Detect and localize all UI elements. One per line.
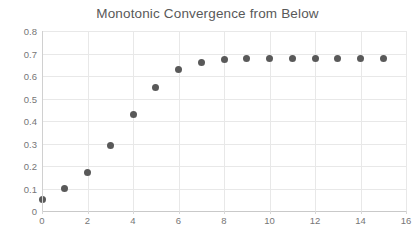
gridline-vertical bbox=[406, 31, 407, 211]
y-axis-tick-label: 0.4 bbox=[24, 116, 42, 127]
data-point bbox=[312, 55, 319, 62]
gridline-vertical bbox=[133, 31, 134, 211]
data-point bbox=[243, 55, 250, 62]
y-axis-tick-labels: 00.10.20.30.40.50.60.70.8 bbox=[0, 31, 42, 211]
y-axis-line bbox=[42, 31, 43, 212]
x-axis-tick-label: 12 bbox=[310, 215, 321, 226]
data-point bbox=[198, 59, 205, 66]
data-point bbox=[289, 55, 296, 62]
x-axis-tick-mark bbox=[42, 211, 43, 214]
data-point bbox=[221, 56, 228, 63]
plot-area bbox=[42, 31, 406, 211]
x-axis-tick-mark bbox=[406, 211, 407, 214]
data-point bbox=[107, 142, 114, 149]
y-axis-tick-label: 0.6 bbox=[24, 71, 42, 82]
x-axis-tick-mark bbox=[270, 211, 271, 214]
data-point bbox=[84, 169, 91, 176]
x-axis-tick-mark bbox=[361, 211, 362, 214]
x-axis-tick-mark bbox=[88, 211, 89, 214]
data-point bbox=[152, 84, 159, 91]
y-axis-tick-label: 0.8 bbox=[24, 26, 42, 37]
chart-title: Monotonic Convergence from Below bbox=[0, 6, 415, 21]
data-point bbox=[266, 55, 273, 62]
data-point bbox=[175, 66, 182, 73]
data-point bbox=[130, 111, 137, 118]
x-axis-tick-label: 14 bbox=[355, 215, 366, 226]
data-point bbox=[334, 55, 341, 62]
data-point bbox=[380, 55, 387, 62]
chart-container: Monotonic Convergence from Below 00.10.2… bbox=[0, 0, 415, 243]
y-axis-tick-label: 0.5 bbox=[24, 93, 42, 104]
x-axis-tick-mark bbox=[315, 211, 316, 214]
x-axis-tick-label: 10 bbox=[264, 215, 275, 226]
gridline-vertical bbox=[179, 31, 180, 211]
y-axis-tick-label: 0.7 bbox=[24, 48, 42, 59]
y-axis-tick-label: 0.2 bbox=[24, 161, 42, 172]
x-axis-tick-label: 0 bbox=[39, 215, 44, 226]
data-point bbox=[357, 55, 364, 62]
y-axis-tick-label: 0.1 bbox=[24, 183, 42, 194]
x-axis-tick-mark bbox=[133, 211, 134, 214]
x-axis-tick-label: 8 bbox=[221, 215, 226, 226]
x-axis-tick-mark bbox=[224, 211, 225, 214]
x-axis-tick-label: 16 bbox=[401, 215, 412, 226]
gridline-vertical bbox=[88, 31, 89, 211]
data-point bbox=[61, 185, 68, 192]
x-axis-tick-mark bbox=[179, 211, 180, 214]
x-axis-tick-label: 2 bbox=[85, 215, 90, 226]
x-axis-tick-labels: 0246810121416 bbox=[42, 213, 406, 233]
y-axis-tick-label: 0.3 bbox=[24, 138, 42, 149]
x-axis-tick-label: 4 bbox=[130, 215, 135, 226]
x-axis-tick-label: 6 bbox=[176, 215, 181, 226]
